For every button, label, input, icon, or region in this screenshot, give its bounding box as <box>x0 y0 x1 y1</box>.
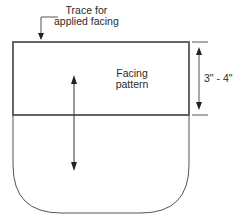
facing-label: Facing pattern <box>112 68 152 90</box>
facing-label-line2: pattern <box>112 79 152 90</box>
grainline-arrow-up-icon <box>71 75 77 84</box>
grainline-arrow-down-icon <box>71 162 77 171</box>
callout-arrowhead-icon <box>38 33 44 40</box>
dimension-arrow-down-icon <box>196 102 202 110</box>
pattern-outline <box>13 115 189 213</box>
dimension-label: 3" - 4" <box>204 73 232 84</box>
facing-pattern-rect <box>13 42 189 115</box>
callout-label-line2: applied facing <box>54 16 119 27</box>
dimension-arrow-up-icon <box>196 47 202 55</box>
callout-label: Trace for applied facing <box>54 5 119 27</box>
facing-diagram <box>0 0 236 223</box>
